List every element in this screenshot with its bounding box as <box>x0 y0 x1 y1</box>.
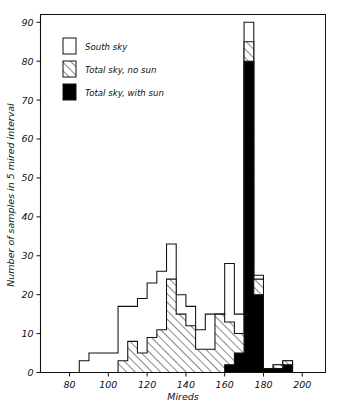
x-tick-label: 160 <box>216 379 234 390</box>
x-tick-label: 180 <box>254 379 272 390</box>
x-axis-title: Mireds <box>167 391 199 402</box>
histogram-figure: 0102030405060708090 80100120140160180200… <box>0 0 337 410</box>
y-tick-label: 50 <box>21 172 33 183</box>
chart-canvas: 0102030405060708090 80100120140160180200… <box>0 0 337 410</box>
y-axis: 0102030405060708090 <box>21 15 40 378</box>
legend-swatch-hatched <box>63 61 76 77</box>
x-tick-label: 200 <box>293 379 311 390</box>
x-tick-label: 140 <box>177 379 195 390</box>
y-tick-label: 70 <box>21 95 33 106</box>
y-axis-title: Number of samples in 5 mired interval <box>5 103 16 287</box>
y-tick-label: 10 <box>21 328 33 339</box>
series-layer <box>41 22 322 372</box>
y-tick-label: 60 <box>21 133 33 144</box>
y-tick-label: 0 <box>27 367 33 378</box>
x-tick-label: 80 <box>64 379 76 390</box>
series-fill-total-sky-no-sun <box>41 42 322 373</box>
y-tick-label: 30 <box>21 250 33 261</box>
legend-swatch-solid <box>63 84 76 100</box>
legend-label: Total sky, with sun <box>85 88 164 98</box>
x-tick-label: 120 <box>138 379 156 390</box>
x-tick-label: 100 <box>99 379 117 390</box>
y-tick-label: 20 <box>21 289 33 300</box>
x-axis: 80100120140160180200 <box>41 373 326 390</box>
chart-legend: South skyTotal sky, no sunTotal sky, wit… <box>63 38 164 100</box>
legend-label: Total sky, no sun <box>85 65 156 75</box>
legend-label: South sky <box>85 42 128 52</box>
y-tick-label: 40 <box>21 211 33 222</box>
legend-swatch-white <box>63 38 76 54</box>
y-tick-label: 80 <box>21 56 33 67</box>
y-tick-label: 90 <box>21 17 33 28</box>
